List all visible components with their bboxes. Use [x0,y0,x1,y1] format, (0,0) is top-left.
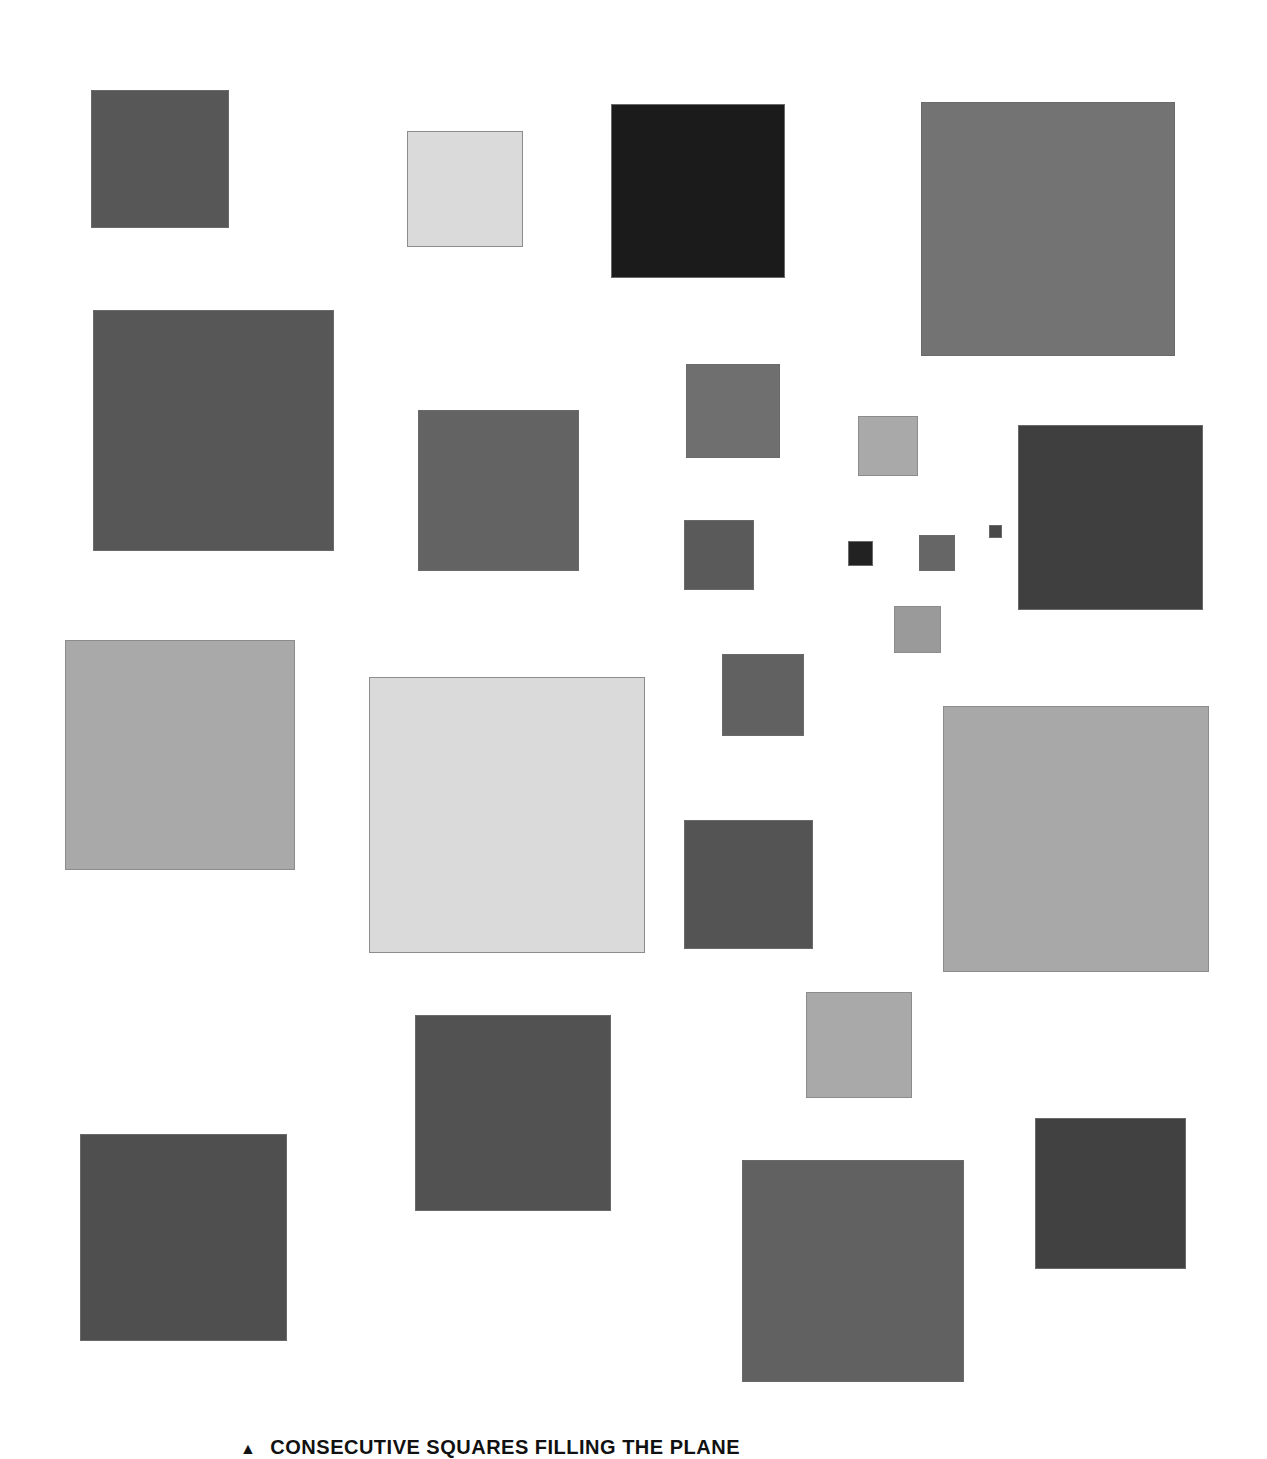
square-3 [611,104,785,278]
square-22 [1035,1118,1186,1269]
square-11 [848,541,873,566]
square-16 [369,677,645,953]
square-14 [894,606,941,653]
triangle-marker-icon: ▲ [240,1439,256,1459]
square-9 [1018,425,1203,610]
square-17 [722,654,804,736]
square-4 [921,102,1175,356]
square-10 [684,520,754,590]
square-2 [407,131,523,247]
square-20 [806,992,912,1098]
square-21 [415,1015,611,1211]
square-19 [684,820,813,949]
square-24 [742,1160,964,1382]
square-5 [93,310,334,551]
square-15 [65,640,295,870]
square-23 [80,1134,287,1341]
caption-text: CONSECUTIVE SQUARES FILLING THE PLANE [270,1436,740,1458]
square-18 [943,706,1209,972]
square-1 [91,90,229,228]
square-8 [858,416,918,476]
figure-caption: ▲CONSECUTIVE SQUARES FILLING THE PLANE [240,1437,740,1459]
square-13 [989,525,1002,538]
square-7 [686,364,780,458]
square-12 [919,535,955,571]
square-6 [418,410,579,571]
